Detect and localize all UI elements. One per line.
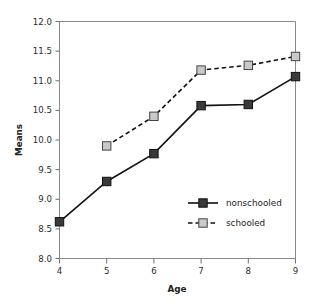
data-point-marker — [150, 149, 158, 157]
data-point-marker — [244, 61, 252, 69]
legend-item-schooled[interactable]: schooled — [188, 218, 265, 228]
y-axis-title: Means — [14, 124, 24, 156]
data-point-marker — [103, 177, 111, 185]
x-tick-label: 5 — [104, 266, 109, 276]
data-point-marker — [291, 52, 299, 60]
y-tick-label: 10.0 — [33, 135, 52, 145]
legend-marker-swatch — [199, 199, 207, 207]
x-tick-label: 4 — [57, 266, 62, 276]
legend-marker-swatch — [199, 219, 207, 227]
y-tick-label: 9.0 — [38, 194, 52, 204]
data-point-marker — [103, 142, 111, 150]
chart-canvas: 12.0 11.5 11.0 10.5 10.0 9.5 9.0 8.5 8.0… — [0, 0, 312, 304]
x-tick-label: 9 — [293, 266, 298, 276]
y-tick-label: 10.5 — [33, 105, 52, 115]
data-point-marker — [244, 100, 252, 108]
legend-label: nonschooled — [226, 198, 282, 208]
y-tick-label: 8.5 — [38, 224, 52, 234]
data-point-marker — [150, 112, 158, 120]
x-axis-title: Age — [167, 284, 186, 294]
x-tick-label: 7 — [198, 266, 203, 276]
data-point-marker — [291, 72, 299, 80]
x-tick-label: 6 — [151, 266, 156, 276]
x-tick-label: 8 — [246, 266, 251, 276]
y-tick-label: 12.0 — [33, 17, 52, 27]
data-point-marker — [197, 101, 205, 109]
data-point-marker — [55, 218, 63, 226]
y-tick-label: 9.5 — [38, 165, 52, 175]
y-tick-label: 11.0 — [33, 76, 52, 86]
y-tick-label: 8.0 — [38, 254, 52, 264]
line-chart: 12.0 11.5 11.0 10.5 10.0 9.5 9.0 8.5 8.0… — [0, 0, 312, 304]
legend-label: schooled — [226, 218, 265, 228]
data-point-marker — [197, 66, 205, 74]
y-tick-label: 11.5 — [33, 46, 52, 56]
legend-item-nonschooled[interactable]: nonschooled — [188, 198, 282, 208]
